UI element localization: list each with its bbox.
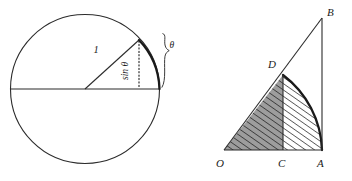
figure-container: 1 sin θ θ O C A B D	[0, 0, 352, 181]
right-panel-triangle-sector: O C A B D	[216, 6, 334, 169]
theta-label: θ	[170, 40, 175, 50]
arc-theta-thick	[139, 40, 160, 89]
point-label-O: O	[216, 157, 224, 169]
geometry-figure: 1 sin θ θ O C A B D	[0, 0, 352, 181]
angle-brace	[162, 34, 169, 88]
region-segment-CDA	[283, 75, 322, 150]
point-label-D: D	[267, 58, 276, 70]
left-panel-unit-circle: 1 sin θ θ	[11, 15, 175, 164]
point-label-B: B	[327, 6, 334, 18]
sine-label: sin θ	[120, 62, 130, 80]
point-label-A: A	[316, 157, 324, 169]
point-label-C: C	[278, 157, 286, 169]
radius-label: 1	[94, 44, 99, 55]
